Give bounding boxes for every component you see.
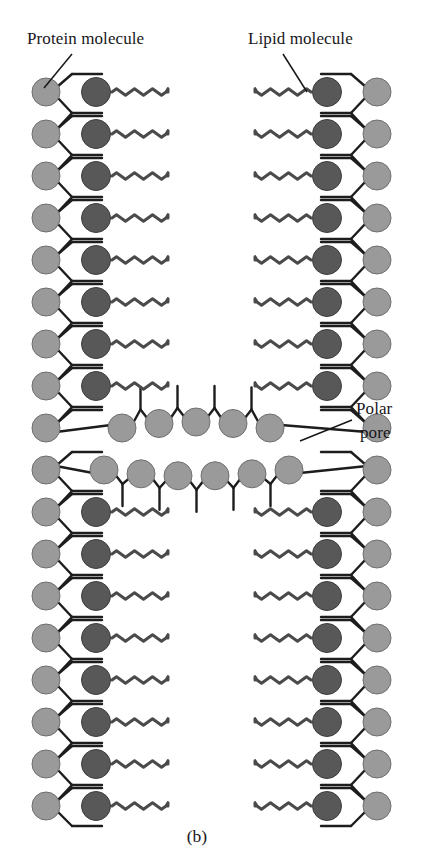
- upper-left-protein-head: [32, 162, 60, 190]
- pore-lower-pore-head: [90, 456, 118, 484]
- figure-caption: (b): [187, 826, 208, 846]
- lower-left-protein-head: [32, 582, 60, 610]
- lower-left-lipid-head: [82, 708, 111, 737]
- upper-right-lipid-head: [313, 204, 342, 233]
- upper-right-lipid-head: [313, 162, 342, 191]
- lower-right-protein-head: [363, 666, 391, 694]
- pore-lower-pore-head: [275, 456, 303, 484]
- upper-left-protein-head: [32, 246, 60, 274]
- upper-left-protein-head: [32, 120, 60, 148]
- lower-right-lipid-head: [313, 540, 342, 569]
- lipid-bilayer-diagram: Protein molecule Lipid molecule Polar po…: [0, 0, 423, 858]
- lower-right-lipid-head: [313, 708, 342, 737]
- pore-lower-pore-head: [127, 460, 155, 488]
- pore-lower-pore-head: [238, 460, 266, 488]
- polar-pore-label-line1: Polar: [356, 399, 393, 418]
- upper-left-lipid-head: [82, 288, 111, 317]
- lower-right-lipid-head: [313, 750, 342, 779]
- protein-molecule-label: Protein molecule: [27, 29, 144, 48]
- lower-left-protein-head: [32, 456, 60, 484]
- upper-left-protein-head: [32, 288, 60, 316]
- upper-left-lipid-head: [82, 246, 111, 275]
- upper-left-protein-head: [32, 330, 60, 358]
- upper-right-lipid-head: [313, 246, 342, 275]
- lower-right-lipid-head: [313, 666, 342, 695]
- lower-left-protein-head: [32, 666, 60, 694]
- lower-left-protein-head: [32, 750, 60, 778]
- upper-right-lipid-head: [313, 330, 342, 359]
- pore-upper-pore-head: [145, 410, 173, 438]
- upper-right-protein-head: [363, 162, 391, 190]
- lower-left-protein-head: [32, 792, 60, 820]
- upper-left-lipid-head: [82, 162, 111, 191]
- lower-left-lipid-head: [82, 750, 111, 779]
- pore-upper-pore-head: [256, 414, 284, 442]
- lower-right-protein-head: [363, 498, 391, 526]
- upper-right-lipid-head: [313, 288, 342, 317]
- upper-right-protein-head: [363, 288, 391, 316]
- lipid-molecule-label: Lipid molecule: [248, 29, 353, 48]
- lower-right-protein-head: [363, 750, 391, 778]
- upper-right-protein-head: [363, 204, 391, 232]
- lower-right-lipid-head: [313, 582, 342, 611]
- lower-right-protein-head: [363, 540, 391, 568]
- lower-left-protein-head: [32, 708, 60, 736]
- upper-right-protein-head: [363, 120, 391, 148]
- lower-right-protein-head: [363, 456, 391, 484]
- lower-right-lipid-head: [313, 792, 342, 821]
- upper-left-lipid-head: [82, 204, 111, 233]
- upper-left-protein-head: [32, 372, 60, 400]
- lower-left-lipid-head: [82, 624, 111, 653]
- lower-right-lipid-head: [313, 624, 342, 653]
- upper-right-lipid-head: [313, 78, 342, 107]
- upper-left-lipid-head: [82, 330, 111, 359]
- upper-right-protein-head: [363, 372, 391, 400]
- upper-right-protein-head: [363, 330, 391, 358]
- upper-right-lipid-head: [313, 372, 342, 401]
- figure-container: Protein molecule Lipid molecule Polar po…: [0, 0, 423, 858]
- upper-left-lipid-head: [82, 78, 111, 107]
- polar-pore-label-line2: pore: [360, 423, 391, 442]
- upper-right-protein-head: [363, 78, 391, 106]
- pore-upper-pore-head: [108, 414, 136, 442]
- lower-right-protein-head: [363, 792, 391, 820]
- pore-upper-pore-head: [182, 408, 210, 436]
- pore-upper-pore-head: [219, 410, 247, 438]
- upper-right-lipid-head: [313, 120, 342, 149]
- lower-left-lipid-head: [82, 666, 111, 695]
- lower-left-lipid-head: [82, 498, 111, 527]
- upper-right-protein-head: [363, 246, 391, 274]
- lower-left-protein-head: [32, 498, 60, 526]
- lower-left-protein-head: [32, 624, 60, 652]
- lower-left-lipid-head: [82, 582, 111, 611]
- pore-lower-pore-head: [201, 462, 229, 490]
- upper-left-protein-head: [32, 414, 60, 442]
- lower-right-protein-head: [363, 624, 391, 652]
- lower-left-lipid-head: [82, 540, 111, 569]
- upper-left-protein-head: [32, 204, 60, 232]
- upper-left-lipid-head: [82, 372, 111, 401]
- lower-right-protein-head: [363, 582, 391, 610]
- lower-right-lipid-head: [313, 498, 342, 527]
- lower-left-lipid-head: [82, 792, 111, 821]
- lower-left-protein-head: [32, 540, 60, 568]
- upper-left-lipid-head: [82, 120, 111, 149]
- lower-right-protein-head: [363, 708, 391, 736]
- upper-left-protein-head: [32, 78, 60, 106]
- pore-lower-pore-head: [164, 462, 192, 490]
